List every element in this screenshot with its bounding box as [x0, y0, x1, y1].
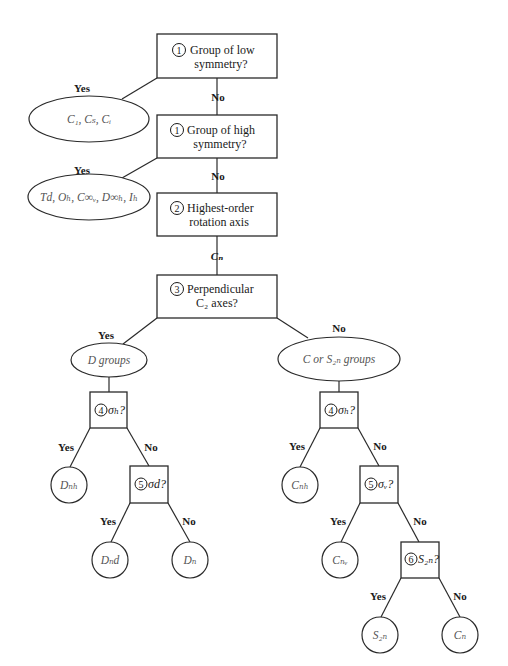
step-text-line1: Perpendicular: [187, 282, 254, 296]
step-text-line1: Group of high: [187, 123, 255, 137]
result-text: D groups: [87, 354, 131, 367]
label-yes: Yes: [98, 329, 115, 341]
step-number: 3: [175, 284, 180, 295]
result-d-groups: D groups: [71, 343, 147, 377]
edge-high-yes: [122, 158, 157, 178]
label-no: No: [413, 515, 427, 527]
label-cn: Cₙ: [211, 250, 223, 262]
result-Cnh: Cₙₕ: [282, 467, 318, 503]
edge-perp-no: [277, 318, 308, 338]
step-d-sigma-h: 4 σₕ?: [90, 392, 127, 428]
result-text: Cₙᵥ: [332, 554, 348, 566]
result-Dnd: Dₙd: [92, 542, 128, 578]
step-number: 5: [369, 479, 374, 490]
step-text-line1: Highest-order: [187, 201, 254, 215]
result-text: S₂ₙ: [373, 629, 388, 641]
step-text-line2: symmetry?: [194, 57, 247, 71]
step-text: σd?: [148, 477, 166, 491]
step-text-line2: rotation axis: [189, 215, 249, 229]
result-low-symmetry: C₁, Cₛ, Cᵢ: [29, 96, 149, 142]
result-high-symmetry: Td, Oₕ, C∞ᵥ, D∞ₕ, Iₕ: [28, 174, 150, 220]
step-c-sigma-v: 5 σᵥ?: [360, 466, 398, 503]
label-yes: Yes: [370, 590, 387, 602]
step-number: 2: [175, 203, 180, 214]
step-rotation-axis: 2 Highest-order rotation axis: [157, 193, 277, 236]
result-text: Td, Oₕ, C∞ᵥ, D∞ₕ, Iₕ: [40, 191, 138, 204]
label-yes: Yes: [289, 440, 306, 452]
result-text: C or S₂ₙ groups: [303, 353, 376, 366]
label-yes: Yes: [74, 82, 91, 94]
label-yes: Yes: [330, 515, 347, 527]
step-low-symmetry: 1 Group of low symmetry?: [157, 34, 277, 78]
step-text: σₕ?: [338, 403, 355, 417]
result-c-groups: C or S₂ₙ groups: [278, 337, 400, 381]
step-number: 4: [99, 405, 104, 416]
label-no: No: [211, 170, 225, 182]
step-number: 6: [409, 554, 414, 565]
step-text-line1: Group of low: [190, 43, 255, 57]
edge-low-yes: [122, 78, 157, 99]
label-no: No: [453, 590, 467, 602]
result-Dnh: Dₙₕ: [51, 467, 87, 503]
edge-perp-yes: [123, 318, 157, 344]
result-Dn: Dₙ: [172, 542, 208, 578]
label-no: No: [373, 440, 387, 452]
step-c-s2n: 6 S₂ₙ?: [401, 542, 439, 578]
result-text: Dₙ: [183, 554, 197, 566]
result-Cnv: Cₙᵥ: [322, 542, 358, 578]
result-text: Dₙd: [100, 554, 120, 566]
label-yes: Yes: [100, 515, 117, 527]
step-text-line2: C₂ axes?: [196, 296, 238, 310]
step-c-sigma-h: 4 σₕ?: [320, 392, 358, 428]
step-perpendicular-c2: 3 Perpendicular C₂ axes?: [157, 275, 277, 318]
step-d-sigma-d: 5 σd?: [130, 466, 168, 503]
label-no: No: [182, 515, 196, 527]
label-no: No: [144, 441, 158, 453]
label-no: No: [332, 322, 346, 334]
step-number: 1: [177, 45, 182, 56]
step-text-line2: symmetry?: [193, 137, 246, 151]
step-number: 5: [139, 479, 144, 490]
result-text: Cₙ: [454, 629, 467, 641]
step-number: 4: [329, 405, 334, 416]
step-high-symmetry: 1 Group of high symmetry?: [157, 115, 277, 158]
point-group-flowchart: Yes No Yes No Cₙ Yes No Yes No Yes No Ye…: [0, 0, 508, 666]
step-text: σᵥ?: [378, 477, 393, 491]
result-text: Dₙₕ: [59, 479, 78, 491]
result-S2n: S₂ₙ: [362, 617, 398, 653]
label-no: No: [211, 91, 225, 103]
step-text: σₕ?: [108, 403, 125, 417]
result-text: C₁, Cₛ, Cᵢ: [67, 113, 111, 126]
result-text: Cₙₕ: [291, 479, 308, 491]
step-number: 1: [175, 125, 180, 136]
result-Cn: Cₙ: [442, 617, 478, 653]
step-text: S₂ₙ?: [418, 552, 439, 566]
label-yes: Yes: [58, 441, 75, 453]
